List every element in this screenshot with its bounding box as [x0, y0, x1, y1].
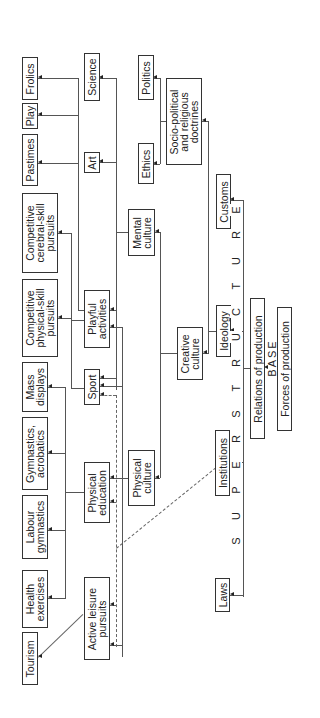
connector: [71, 320, 84, 321]
node-institutions: Institutions: [215, 430, 230, 496]
connector: [160, 353, 177, 354]
superstructure-letter: E: [230, 204, 242, 216]
arrowhead: [100, 375, 104, 379]
node-ideology: Ideology: [216, 305, 231, 357]
arrowhead: [48, 527, 52, 531]
arrowhead: [38, 654, 42, 658]
arrowhead: [38, 112, 42, 116]
node-creative-culture: Creative culture: [177, 327, 203, 380]
superstructure-letter: T: [230, 280, 242, 292]
connector: [71, 233, 72, 321]
arrowhead: [100, 383, 104, 387]
node-gymnastics: Gymnastics, acrobatics: [22, 417, 48, 490]
node-competitive-cerebral: Competitive cerebral-skill pursuits: [22, 193, 58, 273]
base-label: BASE: [266, 338, 278, 378]
node-physical-culture: Physical culture: [128, 450, 155, 506]
node-active-leisure: Active leisure pursuits: [84, 577, 110, 660]
superstructure-letter: E: [230, 459, 242, 471]
node-politics: Politics: [138, 55, 154, 100]
arrowhead: [110, 324, 114, 328]
node-art: Art: [84, 152, 100, 173]
arrowhead: [155, 229, 159, 233]
arrowhead: [58, 230, 62, 234]
node-forces-of-production: Forces of production: [277, 307, 292, 431]
node-health-exercises: Health exercises: [22, 570, 48, 628]
node-competitive-physical: Competitive physical-skill pursuits: [22, 279, 58, 357]
node-playful-activities: Playful activities: [84, 290, 110, 348]
superstructure-letter: R: [230, 433, 242, 445]
superstructure-letter: U: [230, 255, 242, 267]
node-tourism: Tourism: [22, 632, 38, 685]
node-physical-education: Physical education: [84, 462, 110, 523]
arrowhead: [155, 475, 159, 479]
connector: [122, 327, 123, 657]
node-socio-political-doctrines: Socio-political and religious doctrines: [166, 78, 202, 165]
arrowhead: [110, 475, 114, 479]
superstructure-letter: U: [230, 510, 242, 522]
connector: [65, 492, 84, 493]
arrowhead: [110, 307, 114, 311]
node-mental-culture: Mental culture: [128, 209, 155, 256]
arrowhead: [110, 602, 114, 606]
arrowhead: [38, 75, 42, 79]
connector: [160, 232, 161, 478]
node-pastimes: Pastimes: [22, 134, 38, 186]
connector: [71, 388, 84, 389]
connector: [116, 78, 117, 390]
arrowhead: [48, 450, 52, 454]
superstructure-letter: U: [230, 331, 242, 343]
superstructure-spine: [243, 200, 244, 597]
arrowhead: [48, 384, 52, 388]
node-mass-displays: Mass displays: [22, 362, 48, 412]
arrowhead: [202, 118, 206, 122]
connector: [208, 331, 216, 332]
arrowhead: [48, 595, 52, 599]
node-science: Science: [84, 53, 100, 101]
superstructure-letter: T: [230, 382, 242, 394]
arrowhead: [110, 642, 114, 646]
superstructure-letter: C: [230, 306, 242, 318]
connector: [65, 387, 66, 599]
node-play: Play: [22, 103, 38, 129]
arrowhead: [100, 392, 104, 396]
connector: [78, 78, 79, 310]
connector: [38, 115, 78, 116]
superstructure-letter: R: [230, 229, 242, 241]
superstructure-letter: P: [230, 484, 242, 496]
arrowhead: [230, 592, 234, 596]
superstructure-letter: S: [230, 535, 242, 547]
connector: [38, 78, 78, 79]
arrowhead: [203, 350, 207, 354]
superstructure-letter: R: [230, 357, 242, 369]
node-laws: Laws: [215, 578, 230, 612]
node-labour-gymnastics: Labour gymnastics: [22, 495, 48, 559]
connector: [116, 232, 128, 233]
arrowhead: [58, 315, 62, 319]
superstructure-letter: S: [230, 408, 242, 420]
node-ethics: Ethics: [138, 143, 154, 184]
node-sport: Sport: [84, 369, 100, 405]
connector: [38, 163, 78, 164]
node-customs: Customs: [216, 174, 231, 229]
arrowhead: [110, 499, 114, 503]
node-relations-of-production: Relations of production: [250, 298, 265, 439]
node-frolics: Frolics: [22, 57, 38, 100]
arrowhead: [38, 160, 42, 164]
connector: [208, 121, 209, 354]
dashed-connector: [116, 395, 117, 647]
connector: [71, 318, 72, 388]
